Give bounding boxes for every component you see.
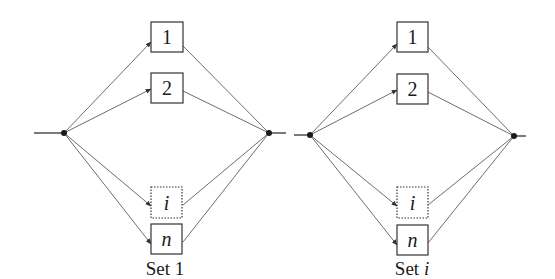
set-i-block-n: n: [397, 225, 428, 255]
set-i-edge-in-i: [310, 135, 397, 206]
set-1-edge-in-1: [64, 42, 151, 133]
set-i-block-1: 1: [397, 22, 428, 52]
set-i-block-i: i: [397, 187, 428, 218]
set-1-output-node: [266, 130, 272, 136]
set-i-edge-in-2: [310, 90, 397, 135]
set-1-block-n-label: n: [162, 228, 172, 250]
set-i-edge-out-n: [428, 136, 514, 243]
set-i-block-2: 2: [397, 74, 428, 104]
set-1-edge-out-i: [183, 133, 269, 205]
set-i-edge-in-1: [310, 44, 397, 135]
set-i-input-node: [307, 132, 313, 138]
set-i-block-2-label: 2: [408, 78, 418, 100]
set-1-edge-in-n: [64, 133, 151, 244]
set-1-block-i: i: [151, 187, 182, 218]
set-1-edge-out-1: [183, 46, 269, 133]
set-1-block-2: 2: [151, 73, 183, 103]
set-1-block-1: 1: [151, 22, 183, 52]
set-i-block-n-label: n: [408, 229, 418, 251]
set-1: 1 2 i n Set 1: [34, 22, 286, 279]
series-parallel-diagram: 1 2 i n Set 1: [0, 0, 555, 279]
set-i-edge-in-n: [310, 135, 397, 245]
set-i-edge-out-2: [428, 92, 514, 136]
set-i-block-1-label: 1: [408, 26, 418, 48]
set-i: 1 2 i n Set i: [294, 22, 526, 279]
set-i-label: Set i: [395, 258, 429, 279]
set-1-edge-out-n: [183, 133, 269, 242]
set-i-edge-out-1: [428, 47, 514, 136]
set-1-block-1-label: 1: [162, 26, 172, 48]
set-1-block-n: n: [151, 224, 182, 254]
set-1-input-node: [61, 130, 67, 136]
set-i-block-i-label: i: [410, 192, 416, 214]
set-i-output-node: [511, 133, 517, 139]
set-1-block-i-label: i: [164, 192, 170, 214]
set-1-edge-in-2: [64, 89, 151, 133]
set-i-edge-out-i: [428, 136, 514, 205]
set-1-label: Set 1: [146, 258, 185, 279]
set-1-block-2-label: 2: [162, 77, 172, 99]
set-1-edge-out-2: [183, 91, 269, 133]
set-1-edge-in-i: [64, 133, 151, 206]
